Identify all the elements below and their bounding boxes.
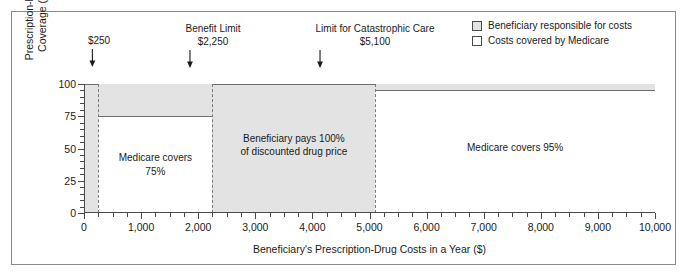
x-axis-major-tick	[655, 213, 656, 219]
x-axis-major-tick	[541, 213, 542, 219]
x-axis-minor-tick	[241, 213, 242, 217]
x-axis-minor-tick	[284, 213, 285, 217]
x-axis-minor-tick	[512, 213, 513, 217]
x-axis-minor-tick	[298, 213, 299, 217]
y-axis-title-line1: Prescription-Drug	[23, 0, 36, 60]
callout-benefit-limit-value: $2,250	[198, 36, 229, 47]
x-axis-title: Beneficiary's Prescription-Drug Costs in…	[84, 243, 655, 255]
y-axis-tick-label: 75	[64, 110, 76, 122]
plot-area: Medicare covers 75% Beneficiary pays 100…	[84, 84, 655, 213]
legend-item-medicare: Costs covered by Medicare	[472, 35, 632, 46]
y-axis-tick-label: 0	[70, 207, 76, 219]
down-arrow-icon	[88, 49, 97, 67]
x-axis-tick-label: 9,000	[585, 221, 611, 233]
x-axis-major-tick	[141, 213, 142, 219]
x-axis-minor-tick	[184, 213, 185, 217]
legend-item-beneficiary: Beneficiary responsible for costs	[472, 20, 632, 31]
x-axis-major-tick	[598, 213, 599, 219]
x-axis-minor-tick	[270, 213, 271, 217]
legend-swatch-covered-icon	[472, 36, 482, 46]
x-axis-minor-tick	[170, 213, 171, 217]
x-axis-minor-tick	[626, 213, 627, 217]
x-axis-minor-tick	[398, 213, 399, 217]
x-axis-minor-tick	[441, 213, 442, 217]
x-axis-tick-label: 0	[81, 221, 87, 233]
x-axis-minor-tick	[327, 213, 328, 217]
chart-figure: Beneficiary responsible for costs Costs …	[0, 0, 691, 278]
x-axis-minor-tick	[455, 213, 456, 217]
x-axis-minor-tick	[212, 213, 213, 217]
legend-swatch-shaded-icon	[472, 21, 482, 31]
x-axis-minor-tick	[569, 213, 570, 217]
x-axis-minor-tick	[98, 213, 99, 217]
x-axis-tick-label: 3,000	[242, 221, 268, 233]
x-axis-tick-label: 8,000	[528, 221, 554, 233]
callout-deductible: $250	[88, 34, 110, 67]
x-axis-tick-label: 10,000	[639, 221, 671, 233]
callout-benefit-limit-title: Benefit Limit	[185, 23, 240, 34]
x-axis-tick-label: 6,000	[413, 221, 439, 233]
down-arrow-icon	[316, 50, 325, 68]
x-axis-minor-tick	[341, 213, 342, 217]
x-axis-tick-label: 1,000	[128, 221, 154, 233]
legend-label-medicare: Costs covered by Medicare	[488, 35, 609, 46]
y-axis-tick-label: 50	[64, 143, 76, 155]
x-axis-minor-tick	[612, 213, 613, 217]
y-axis-tick-label: 100	[58, 78, 76, 90]
x-axis-major-tick	[198, 213, 199, 219]
callout-benefit-limit: Benefit Limit $2,250	[185, 22, 240, 68]
callout-catastrophic-limit-value: $5,100	[360, 36, 391, 47]
x-axis-major-tick	[84, 213, 85, 219]
y-axis-title: Prescription-Drug Coverage (%)	[16, 0, 56, 84]
x-axis-minor-tick	[113, 213, 114, 217]
x-axis-minor-tick	[155, 213, 156, 217]
x-axis-tick-label: 4,000	[299, 221, 325, 233]
x-axis-minor-tick	[384, 213, 385, 217]
x-axis-minor-tick	[355, 213, 356, 217]
x-axis-tick-label: 2,000	[185, 221, 211, 233]
plot-frame	[84, 84, 655, 213]
x-axis-minor-tick	[584, 213, 585, 217]
x-axis-minor-tick	[641, 213, 642, 217]
y-axis-tick-label: 25	[64, 175, 76, 187]
callout-catastrophic-limit-title: Limit for Catastrophic Care	[316, 23, 435, 34]
callout-deductible-value: $250	[88, 35, 110, 46]
x-axis-minor-tick	[527, 213, 528, 217]
x-axis-major-tick	[427, 213, 428, 219]
x-axis-major-tick	[312, 213, 313, 219]
x-axis-tick-label: 5,000	[356, 221, 382, 233]
x-axis-minor-tick	[469, 213, 470, 217]
x-axis-minor-tick	[227, 213, 228, 217]
x-axis-minor-tick	[555, 213, 556, 217]
legend-label-beneficiary: Beneficiary responsible for costs	[488, 20, 632, 31]
x-axis-tick-label: 7,000	[471, 221, 497, 233]
down-arrow-icon	[185, 50, 194, 68]
x-axis-minor-tick	[412, 213, 413, 217]
x-axis-minor-tick	[127, 213, 128, 217]
x-axis-minor-tick	[498, 213, 499, 217]
y-axis-title-line2: Coverage (%)	[36, 0, 49, 60]
callout-catastrophic-limit: Limit for Catastrophic Care $5,100	[316, 22, 435, 68]
x-axis-major-tick	[255, 213, 256, 219]
x-axis-major-tick	[484, 213, 485, 219]
chart-legend: Beneficiary responsible for costs Costs …	[472, 20, 632, 50]
x-axis-major-tick	[370, 213, 371, 219]
